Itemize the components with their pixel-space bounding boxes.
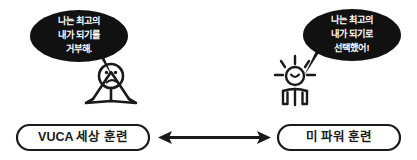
left-bubble-line-1: 나는 최고의: [58, 15, 101, 26]
left-pill-label: VUCA 세상 훈련: [38, 129, 128, 144]
happy-figure-arm-right: [303, 91, 308, 104]
sad-figure-eye-right: [114, 71, 117, 74]
ray-upper-right: [305, 61, 309, 67]
sad-figure-eye-left: [105, 71, 108, 74]
happy-figure-arm-left: [283, 91, 288, 104]
diagram-canvas: 나는 최고의 내가 되기를 거부해. VUCA 세상 훈련: [0, 0, 417, 160]
right-bubble-line-2: 내가 되기로: [331, 28, 375, 39]
left-bubble-line-3: 거부해.: [66, 43, 93, 54]
left-bubble-line-2: 내가 되기를: [58, 29, 102, 40]
right-bubble-line-3: 선택했어!: [334, 42, 369, 53]
sad-figure-frown: [107, 80, 117, 82]
happy-radiant-figure: [275, 56, 315, 105]
sad-stick-figure: [86, 64, 136, 103]
double-headed-arrow: [158, 131, 271, 144]
right-bubble-line-1: 나는 최고의: [331, 14, 374, 25]
happy-figure-smile: [291, 75, 299, 78]
right-pill-label: 미 파워 훈련: [306, 129, 373, 144]
ray-upper-left: [281, 61, 285, 67]
radiance-rays: [275, 56, 315, 75]
